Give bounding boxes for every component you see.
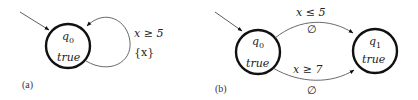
edge-upper-guard: x ≤ 5: [296, 6, 325, 19]
state-q0-b-name: q0: [252, 35, 264, 50]
edge-lower-reset: ∅: [307, 84, 317, 97]
panel-a: q0 true x ≥ 5 {x} (a): [20, 12, 163, 91]
caption-a: (a): [22, 79, 33, 91]
self-loop-guard: x ≥ 5: [134, 27, 163, 40]
state-q0-a-name: q0: [62, 30, 74, 45]
self-loop-reset: {x}: [134, 46, 154, 59]
initial-arrow-a: [20, 12, 49, 30]
state-q1-b-invariant: true: [362, 53, 386, 66]
caption-b: (b): [215, 83, 227, 95]
panel-b: q0 true q1 true x ≤ 5 ∅ x ≥ 7 ∅ (b): [215, 6, 397, 97]
initial-arrow-b: [215, 12, 242, 31]
self-loop-edge-a: [86, 17, 130, 67]
state-q0-b-invariant: true: [246, 57, 270, 70]
timed-automata-diagram: q0 true x ≥ 5 {x} (a) q0 true q1 true x …: [0, 0, 418, 100]
state-q1-b-name: q1: [369, 35, 381, 50]
edge-upper-reset: ∅: [307, 23, 317, 36]
edge-lower-guard: x ≥ 7: [293, 63, 322, 76]
state-q0-a-invariant: true: [57, 51, 81, 64]
